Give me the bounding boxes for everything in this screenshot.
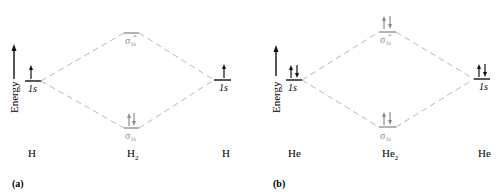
energy-arrow-icon	[274, 45, 279, 76]
right-atom-label: He	[478, 147, 491, 159]
orbital-label-1s: 1s	[219, 82, 228, 93]
electron-up-arrow-icon	[382, 16, 386, 29]
panel-a: Energy 1s σ1s *	[8, 33, 231, 190]
left-atomic-orbital-1s: 1s	[25, 65, 41, 94]
sigma-subscript: 1s	[130, 41, 136, 47]
sigma-subscript: 1s	[385, 136, 391, 142]
electron-down-arrow-icon	[483, 64, 487, 77]
sigma-star-superscript: *	[388, 32, 392, 40]
left-atom-label: He	[288, 147, 301, 159]
svg-text:σ1s: σ1s	[125, 130, 136, 142]
electron-up-arrow-icon	[127, 113, 131, 126]
electron-down-arrow-icon	[295, 65, 299, 78]
left-atom-label: H	[28, 147, 36, 159]
right-atom-label: H	[222, 147, 230, 159]
orbital-label-1s: 1s	[479, 81, 488, 92]
molecule-label: He2	[382, 147, 399, 162]
electron-down-arrow-icon	[388, 16, 392, 29]
correlation-lines	[41, 33, 214, 128]
mo-diagram: Energy 1s σ1s *	[0, 0, 504, 192]
electron-down-arrow-icon	[388, 112, 392, 125]
electron-up-arrow-icon	[222, 64, 226, 78]
energy-axis-label: Energy	[8, 81, 20, 113]
electron-up-arrow-icon	[289, 65, 293, 78]
electron-up-arrow-icon	[382, 112, 386, 125]
sigma-star-superscript: *	[133, 33, 137, 41]
panel-b: Energy 1s	[270, 16, 491, 190]
molecule-label: H2	[127, 147, 139, 162]
right-atomic-orbital-1s: 1s	[474, 64, 490, 92]
antibonding-orbital-sigma-star: σ1s *	[124, 33, 139, 47]
left-atomic-orbital-1s: 1s	[286, 65, 302, 93]
electron-up-arrow-icon	[477, 64, 481, 77]
energy-axis-label: Energy	[270, 81, 282, 113]
panel-caption: (b)	[273, 178, 285, 190]
antibonding-orbital-sigma-star: σ1s *	[379, 16, 396, 46]
electron-up-arrow-icon	[29, 65, 33, 79]
sigma-subscript: 1s	[130, 136, 136, 142]
energy-arrow-icon	[12, 44, 17, 79]
orbital-label-1s: 1s	[28, 83, 37, 94]
panel-caption: (a)	[12, 178, 24, 190]
correlation-lines	[302, 32, 474, 127]
sigma-subscript: 1s	[385, 40, 391, 46]
right-atomic-orbital-1s: 1s	[214, 64, 231, 93]
bonding-orbital-sigma: σ1s	[124, 113, 139, 142]
electron-down-arrow-icon	[132, 113, 136, 126]
bonding-orbital-sigma: σ1s	[379, 112, 396, 142]
svg-text:σ1s: σ1s	[380, 130, 391, 142]
orbital-label-1s: 1s	[288, 82, 297, 93]
